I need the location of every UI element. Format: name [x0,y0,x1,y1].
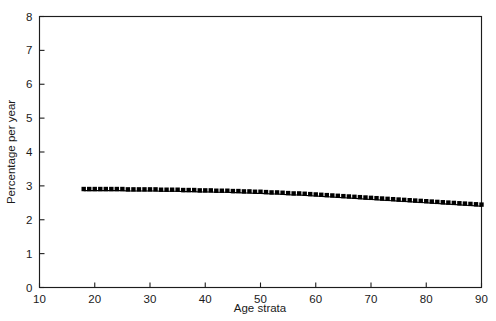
x-tick-label: 40 [199,293,212,305]
data-point [347,194,351,198]
y-axis-tick-labels: 012345678 [26,11,33,294]
data-point [170,188,174,192]
data-point [269,190,273,194]
data-point [198,188,202,192]
data-point [336,194,340,198]
data-point [148,187,152,191]
x-tick-label: 90 [475,293,488,305]
data-point [192,188,196,192]
data-point [164,188,168,192]
data-point [319,193,323,197]
data-point [468,202,472,206]
data-point [303,192,307,196]
data-point [385,197,389,201]
data-point [424,199,428,203]
data-point [308,192,312,196]
figure-background [0,0,496,321]
data-point [380,196,384,200]
data-point [396,197,400,201]
y-tick-label: 0 [26,282,32,294]
x-tick-label: 20 [88,293,101,305]
data-point [441,200,445,204]
data-point [363,195,367,199]
y-tick-label: 6 [26,78,32,90]
data-point [352,195,356,199]
data-point [330,193,334,197]
data-point [258,190,262,194]
data-point [186,188,190,192]
data-point [407,198,411,202]
x-tick-label: 10 [33,293,46,305]
chart-figure: 102030405060708090 012345678 Age strata … [0,0,496,321]
y-tick-label: 3 [26,180,32,192]
data-point [159,188,163,192]
data-point [479,202,483,206]
data-point [369,196,373,200]
data-point [175,188,179,192]
y-axis-title: Percentage per year [5,100,17,204]
x-tick-label: 80 [420,293,433,305]
x-tick-label: 30 [144,293,157,305]
data-point [231,189,235,193]
data-point [220,189,224,193]
data-point [419,199,423,203]
data-point [82,187,86,191]
x-tick-label: 70 [365,293,378,305]
data-point [264,190,268,194]
data-point [109,187,113,191]
data-point [253,190,257,194]
data-point [430,199,434,203]
data-point [297,191,301,195]
data-point [93,187,97,191]
data-point [137,187,141,191]
y-tick-label: 7 [26,44,32,56]
data-point [452,201,456,205]
data-point [120,187,124,191]
data-point [115,187,119,191]
data-point [209,188,213,192]
data-point [142,187,146,191]
y-tick-label: 1 [26,248,32,260]
data-point [435,200,439,204]
y-tick-label: 2 [26,214,32,226]
data-point [286,191,290,195]
data-point [280,191,284,195]
data-point [325,193,329,197]
data-point [153,187,157,191]
data-point [474,202,478,206]
data-point [131,187,135,191]
data-point [98,187,102,191]
line-chart: 102030405060708090 012345678 Age strata … [0,0,496,321]
data-point [225,189,229,193]
data-point [236,189,240,193]
y-tick-label: 4 [26,146,33,158]
data-point [126,187,130,191]
x-tick-label: 60 [309,293,322,305]
data-point [291,191,295,195]
data-point [457,201,461,205]
data-point [247,189,251,193]
data-point [446,200,450,204]
data-point [104,187,108,191]
data-point [413,198,417,202]
data-point [181,188,185,192]
data-point [275,190,279,194]
data-point [203,188,207,192]
data-point [242,189,246,193]
data-point [358,195,362,199]
data-point [374,196,378,200]
data-point [87,187,91,191]
data-point [463,201,467,205]
y-tick-label: 5 [26,112,32,124]
data-point [314,192,318,196]
data-point [341,194,345,198]
data-point [214,189,218,193]
x-axis-title: Age strata [234,302,287,314]
data-point [391,197,395,201]
y-tick-label: 8 [26,11,32,23]
data-point [402,198,406,202]
